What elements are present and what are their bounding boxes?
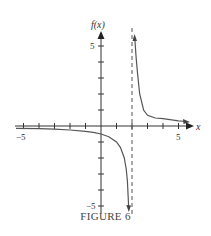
- y-axis-arrow-icon: [98, 31, 105, 39]
- curve-right-branch: [135, 41, 186, 122]
- chart-svg: x f(x) −5 5 5 −5: [0, 0, 211, 236]
- curve-left-branch: [16, 128, 129, 206]
- figure-caption: FIGURE 6: [0, 210, 211, 222]
- x-axis-label: x: [195, 121, 201, 132]
- y-max-label: 5: [90, 41, 95, 51]
- x-axis-arrow-icon: [186, 123, 194, 130]
- x-max-label: 5: [176, 132, 181, 142]
- x-min-label: −5: [16, 132, 26, 142]
- y-axis-label: f(x): [91, 19, 106, 31]
- curve-right-arrow-icon: [133, 34, 138, 41]
